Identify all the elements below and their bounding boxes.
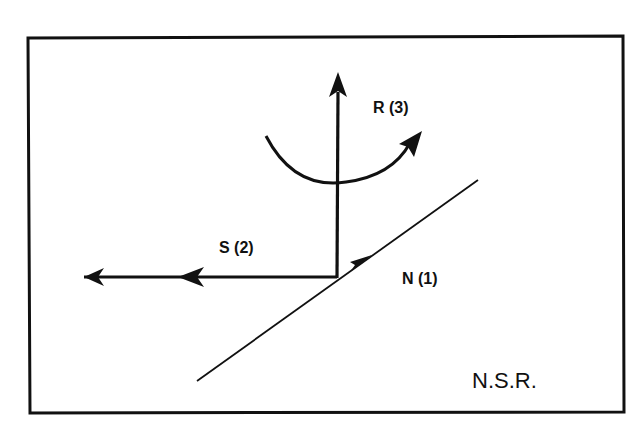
r-vector: [329, 72, 347, 278]
caption-nsr: N.S.R.: [472, 368, 537, 393]
r-vector-shaft: [337, 92, 338, 278]
s-vector: [84, 267, 337, 287]
r-vector-label: R (3): [373, 99, 409, 116]
rotation-arc: [266, 131, 422, 183]
s-vector-label: S (2): [219, 239, 254, 256]
force-diagram: R (3) S (2) N (1) N.S.R.: [0, 0, 642, 424]
diagram-frame: [28, 36, 624, 413]
n-vector-label: N (1): [402, 270, 438, 287]
